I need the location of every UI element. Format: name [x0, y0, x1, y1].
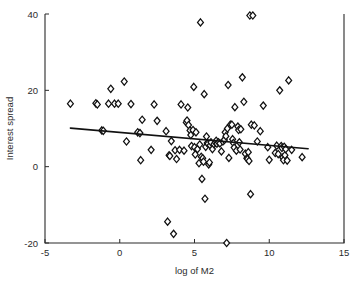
x-tick-label-2: 5	[192, 247, 197, 258]
data-point-0-14	[138, 157, 144, 164]
data-point-0-117	[286, 77, 292, 84]
plot-canvas: -5051015 -2002040 log of M2 Interest spr…	[0, 0, 359, 283]
data-point-0-38	[191, 83, 197, 90]
data-point-0-9	[121, 78, 127, 85]
data-point-0-45	[198, 19, 204, 26]
data-point-0-51	[202, 195, 208, 202]
data-point-0-16	[148, 146, 154, 153]
data-point-0-32	[185, 104, 191, 111]
x-axis-tick-labels: -5051015	[41, 247, 350, 258]
x-axis-title: log of M2	[175, 265, 214, 276]
data-point-0-89	[241, 98, 247, 105]
data-point-0-26	[174, 155, 180, 162]
data-point-0-104	[266, 156, 272, 163]
x-tick-label-0: -5	[41, 247, 49, 258]
y-axis-ticks	[45, 14, 49, 243]
data-point-0-20	[165, 218, 171, 225]
x-tick-label-3: 10	[264, 247, 275, 258]
data-point-0-11	[128, 100, 134, 107]
y-tick-label-2: 20	[27, 85, 38, 96]
data-point-0-67	[218, 148, 224, 155]
x-axis-ticks	[45, 239, 344, 243]
data-point-0-6	[108, 85, 114, 92]
data-point-0-24	[171, 230, 177, 237]
data-point-0-119	[299, 154, 305, 161]
data-point-0-75	[226, 154, 232, 161]
data-point-0-29	[181, 147, 187, 154]
y-axis-tick-labels: -2002040	[24, 9, 38, 249]
data-point-0-102	[260, 102, 266, 109]
y-tick-label-3: 40	[27, 9, 38, 20]
data-point-0-28	[178, 101, 184, 108]
data-point-0-96	[248, 191, 254, 198]
x-tick-label-1: 0	[117, 247, 122, 258]
y-axis-title: Interest spread	[4, 97, 15, 160]
data-point-0-19	[163, 128, 169, 135]
data-point-0-10	[124, 138, 130, 145]
data-point-0-47	[199, 175, 205, 182]
y-tick-label-0: -20	[24, 238, 38, 249]
data-point-0-72	[224, 239, 230, 246]
data-point-markers	[67, 12, 305, 247]
data-point-0-5	[106, 100, 112, 107]
data-point-0-81	[232, 104, 238, 111]
data-point-0-23	[168, 137, 174, 144]
y-tick-label-1: 0	[33, 161, 38, 172]
data-point-0-108	[277, 87, 283, 94]
data-point-0-0	[67, 100, 73, 107]
data-point-0-15	[139, 116, 145, 123]
data-point-0-88	[239, 74, 245, 81]
data-point-0-101	[257, 128, 263, 135]
data-point-0-50	[201, 91, 207, 98]
data-point-0-17	[151, 101, 157, 108]
data-point-0-18	[154, 117, 160, 124]
data-point-0-74	[225, 81, 231, 88]
scatter-plot-figure: -5051015 -2002040 log of M2 Interest spr…	[0, 0, 359, 283]
x-tick-label-4: 15	[339, 247, 350, 258]
